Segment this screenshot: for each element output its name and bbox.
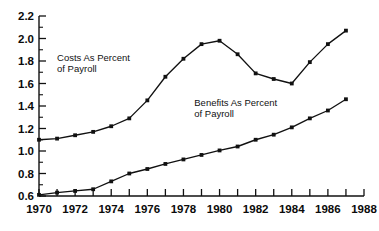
- data-point-marker: [182, 158, 186, 162]
- x-tick-label: 1974: [98, 203, 124, 215]
- series-annotation-line2: of Payroll: [57, 63, 97, 74]
- series-annotation-line2: of Payroll: [194, 108, 234, 119]
- x-tick-label: 1988: [351, 203, 377, 215]
- data-point-marker: [254, 138, 258, 142]
- data-point-marker: [73, 133, 77, 137]
- data-point-marker: [109, 124, 113, 128]
- data-point-marker: [182, 57, 186, 61]
- x-axis-ticks: 1970197219741976197819801982198419861988: [26, 189, 377, 215]
- data-point-marker: [218, 149, 222, 153]
- data-series: Costs As Percentof Payroll: [37, 29, 348, 142]
- y-tick-label: 0.6: [18, 190, 34, 202]
- y-tick-label: 0.8: [18, 168, 35, 180]
- y-tick-label: 1.8: [18, 55, 35, 67]
- data-point-marker: [55, 191, 59, 195]
- data-point-marker: [308, 116, 312, 120]
- y-tick-label: 1.6: [18, 78, 34, 90]
- data-point-marker: [344, 97, 348, 101]
- data-point-marker: [127, 116, 131, 120]
- data-point-marker: [109, 179, 113, 183]
- line-chart: 0.60.81.01.21.41.61.82.02.21970197219741…: [0, 0, 379, 231]
- data-point-marker: [91, 187, 95, 191]
- series-annotation-line1: Benefits As Percent: [194, 97, 277, 108]
- data-point-marker: [91, 130, 95, 134]
- x-tick-label: 1982: [243, 203, 269, 215]
- series-line: [39, 99, 346, 195]
- data-point-marker: [308, 60, 312, 64]
- series-annotation-line1: Costs As Percent: [57, 52, 130, 63]
- y-tick-label: 2.2: [18, 10, 34, 22]
- y-tick-label: 1.4: [18, 100, 35, 112]
- x-tick-label: 1978: [171, 203, 197, 215]
- data-point-marker: [218, 39, 222, 43]
- data-point-marker: [163, 75, 167, 79]
- x-tick-label: 1970: [26, 203, 52, 215]
- data-point-marker: [326, 109, 330, 113]
- data-point-marker: [163, 162, 167, 166]
- data-point-marker: [73, 189, 77, 193]
- data-series: Benefits As Percentof Payroll: [37, 97, 348, 197]
- x-tick-label: 1980: [207, 203, 233, 215]
- y-tick-label: 1.0: [18, 145, 34, 157]
- data-point-marker: [290, 125, 294, 129]
- data-point-marker: [127, 172, 131, 176]
- data-point-marker: [55, 137, 59, 141]
- data-point-marker: [145, 167, 149, 171]
- y-tick-label: 2.0: [18, 33, 34, 45]
- data-point-marker: [326, 42, 330, 46]
- data-point-marker: [290, 82, 294, 86]
- data-point-marker: [37, 193, 41, 197]
- x-tick-label: 1972: [62, 203, 88, 215]
- data-point-marker: [344, 29, 348, 33]
- data-point-marker: [254, 71, 258, 75]
- data-point-marker: [37, 138, 41, 142]
- chart-container: 0.60.81.01.21.41.61.82.02.21970197219741…: [0, 0, 379, 231]
- data-point-marker: [236, 145, 240, 149]
- x-tick-label: 1986: [315, 203, 341, 215]
- y-tick-label: 1.2: [18, 123, 34, 135]
- data-point-marker: [272, 77, 276, 81]
- data-point-marker: [272, 133, 276, 137]
- x-tick-label: 1976: [135, 203, 161, 215]
- data-point-marker: [200, 42, 204, 46]
- y-axis-ticks: 0.60.81.01.21.41.61.82.02.2: [18, 10, 46, 202]
- data-point-marker: [236, 52, 240, 56]
- x-tick-label: 1984: [279, 203, 305, 215]
- data-point-marker: [200, 153, 204, 157]
- data-point-marker: [145, 98, 149, 102]
